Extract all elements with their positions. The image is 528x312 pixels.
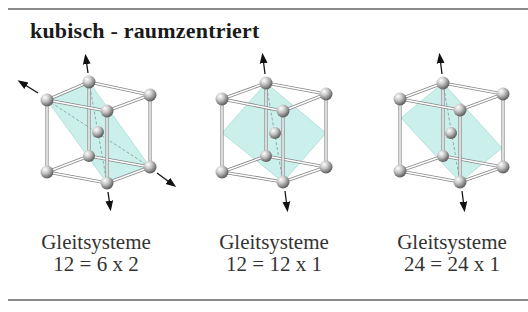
atom xyxy=(83,150,95,162)
center-atom xyxy=(92,126,104,138)
caption-label: Gleitsysteme xyxy=(186,231,362,253)
bcc-cell-2 xyxy=(216,58,333,207)
bcc-cell-3 xyxy=(394,58,510,207)
center-atom xyxy=(445,127,457,139)
caption-formula: 24 = 24 x 1 xyxy=(364,253,528,275)
caption-cell-3: Gleitsysteme 24 = 24 x 1 xyxy=(364,231,528,275)
bcc-cell-1 xyxy=(22,59,172,206)
caption-formula: 12 = 6 x 2 xyxy=(8,253,184,275)
caption-cell-2: Gleitsysteme 12 = 12 x 1 xyxy=(186,231,362,275)
center-atom xyxy=(269,127,281,139)
caption-label: Gleitsysteme xyxy=(8,231,184,253)
caption-formula: 12 = 12 x 1 xyxy=(186,253,362,275)
caption-label: Gleitsysteme xyxy=(364,231,528,253)
bottom-rule xyxy=(8,299,528,301)
caption-cell-1: Gleitsysteme 12 = 6 x 2 xyxy=(8,231,184,275)
